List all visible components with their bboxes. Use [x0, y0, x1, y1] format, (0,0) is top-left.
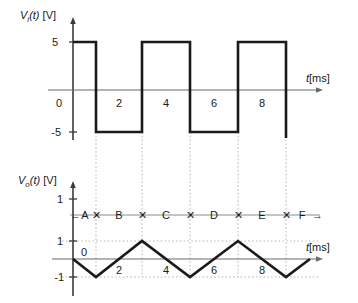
- bottom-y-ticklabel-plus1: 1: [57, 235, 63, 247]
- interval-label-d: D: [210, 209, 218, 221]
- bottom-x-ticklabel-6: 6: [211, 264, 217, 276]
- interval-cross-icon-t1: ✕: [92, 209, 101, 221]
- top-x-ticklabel-4: 4: [163, 97, 169, 109]
- bottom-y-ticklabel-zero: 0: [81, 246, 87, 258]
- top-x-ticklabel-8: 8: [259, 97, 265, 109]
- figure-root: Vi(t) [V] t[ms] 5 -5 0 2 4 6 8 ← → ✕ ✕ ✕…: [0, 0, 358, 303]
- interval-cross-icon-t5: ✕: [186, 209, 195, 221]
- interval-label-a: A: [81, 209, 89, 221]
- interval-right-arrow-icon: →: [312, 209, 323, 221]
- interval-cross-icon-t7: ✕: [234, 209, 243, 221]
- interval-left-arrow-icon: ←: [70, 209, 81, 221]
- interval-label-b: B: [115, 209, 122, 221]
- bottom-x-axis-label: t[ms]: [306, 241, 330, 253]
- waveform-figure: Vi(t) [V] t[ms] 5 -5 0 2 4 6 8 ← → ✕ ✕ ✕…: [0, 0, 358, 303]
- top-x-ticklabel-6: 6: [211, 97, 217, 109]
- top-x-ticklabel-2: 2: [116, 97, 122, 109]
- interval-label-c: C: [162, 209, 170, 221]
- interval-cross-icon-t3: ✕: [138, 209, 147, 221]
- bottom-x-ticklabel-8: 8: [259, 264, 265, 276]
- interval-label-e: E: [258, 209, 265, 221]
- bottom-x-ticklabel-2: 2: [116, 264, 122, 276]
- bottom-y-ticklabel-minus1: -1: [54, 271, 64, 283]
- top-x-axis-label: t[ms]: [306, 72, 330, 84]
- top-y-ticklabel-plus5: 5: [52, 36, 58, 48]
- top-x-ticklabel-0: 0: [56, 97, 62, 109]
- bottom-y-ticklabel-upper: 1: [57, 193, 63, 205]
- interval-cross-icon-t9: ✕: [282, 209, 291, 221]
- bottom-x-ticklabel-4: 4: [163, 264, 169, 276]
- top-y-ticklabel-minus5: -5: [51, 126, 61, 138]
- interval-label-f: F: [299, 209, 306, 221]
